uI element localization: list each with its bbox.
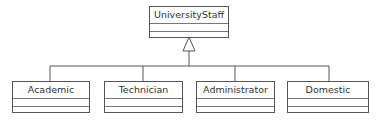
class-attributes <box>105 99 182 107</box>
class-administrator[interactable]: Administrator <box>196 81 275 113</box>
generalization-arrow-icon <box>183 37 195 51</box>
class-operations <box>288 107 368 114</box>
class-operations <box>150 32 228 39</box>
class-operations <box>105 107 182 114</box>
class-attributes <box>150 24 228 32</box>
class-operations <box>197 107 274 114</box>
class-name: Academic <box>13 82 89 99</box>
class-universitystaff[interactable]: UniversityStaff <box>149 6 229 38</box>
class-name: Domestic <box>288 82 368 99</box>
class-attributes <box>197 99 274 107</box>
class-domestic[interactable]: Domestic <box>287 81 369 113</box>
class-name: UniversityStaff <box>150 7 228 24</box>
class-name: Administrator <box>197 82 274 99</box>
class-operations <box>13 107 89 114</box>
class-academic[interactable]: Academic <box>12 81 90 113</box>
class-name: Technician <box>105 82 182 99</box>
class-attributes <box>288 99 368 107</box>
class-technician[interactable]: Technician <box>104 81 183 113</box>
class-attributes <box>13 99 89 107</box>
